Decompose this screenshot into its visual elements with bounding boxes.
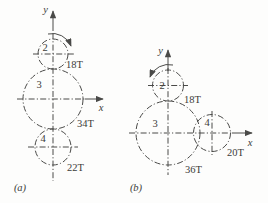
- gear-2-number: 2: [42, 42, 47, 53]
- gear-2-teeth-label: 18T: [184, 94, 202, 105]
- gear-4-teeth-label: 22T: [67, 162, 85, 173]
- gear-train-figure: y 2 18T 3 34T x 4 22T (a): [0, 0, 268, 203]
- x-axis-label: x: [247, 137, 253, 148]
- gear-4-number: 4: [40, 133, 46, 144]
- gear-4-number: 4: [204, 117, 210, 128]
- gear-3-teeth-label: 34T: [77, 118, 95, 129]
- gear-4-teeth-label: 20T: [227, 147, 245, 158]
- y-axis-label: y: [42, 4, 48, 15]
- figure-svg: y 2 18T 3 34T x 4 22T (a): [0, 0, 268, 203]
- gear-2-number: 2: [159, 80, 164, 91]
- gear-3-number: 3: [36, 79, 41, 90]
- caption-b: (b): [130, 182, 143, 194]
- gear-3-teeth-label: 36T: [185, 164, 203, 175]
- counterclockwise-rotation-arrow-icon: [150, 64, 173, 77]
- caption-a: (a): [14, 182, 27, 194]
- y-axis-label: y: [157, 45, 163, 56]
- diagram-a: y 2 18T 3 34T x 4 22T (a): [14, 4, 104, 194]
- clockwise-rotation-arrow-icon: [48, 33, 71, 46]
- diagram-b: y 2 18T 3 36T x 4 20T (b): [129, 45, 253, 194]
- gear-2-teeth-label: 18T: [66, 59, 84, 70]
- x-axis-label: x: [98, 102, 104, 113]
- gear-3-number: 3: [152, 118, 157, 129]
